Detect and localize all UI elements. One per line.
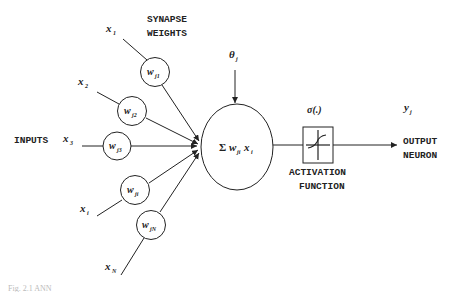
weight-node-j2: w j2 [118,97,147,126]
inputs-label: INPUTS [14,135,49,146]
input-x2-label: x 2 [77,75,88,89]
weight-arrow-1 [162,85,199,141]
weight-node-j3: w j3 [103,132,131,160]
svg-text:Σ: Σ [219,141,226,153]
svg-text:x: x [79,202,86,214]
svg-text:jN: jN [149,226,157,232]
activation-symbol: σ(.) [307,104,322,116]
svg-text:2: 2 [84,83,88,89]
svg-text:θ: θ [229,48,235,60]
svg-text:w: w [109,140,116,151]
weight-node-j1: w j1 [141,58,170,87]
svg-text:w: w [142,219,149,230]
svg-text:j3: j3 [116,147,122,153]
figure-caption: Fig. 2.1 ANN [8,284,52,292]
svg-text:w: w [127,184,134,195]
summation-node: Σ w ji x i [201,104,273,190]
svg-text:ji: ji [134,191,139,197]
input-xN-label: x N [104,260,117,274]
svg-text:N: N [111,268,117,274]
input-line-2 [97,92,119,104]
weight-arrow-N [160,153,199,212]
svg-text:i: i [87,210,89,216]
weights-label: WEIGHTS [147,28,187,39]
output-neuron-label-1: OUTPUT [403,136,438,147]
svg-text:x: x [77,75,84,87]
output-label: y j [402,101,412,115]
svg-text:w: w [124,105,131,116]
weight-arrow-2 [146,118,198,144]
weight-node-ji: w ji [121,176,150,205]
svg-text:x: x [105,22,112,34]
svg-text:j: j [235,56,238,62]
output-neuron-label-2: NEURON [403,150,438,161]
activation-function-box [303,127,333,163]
svg-text:j2: j2 [131,112,137,118]
function-label: FUNCTION [299,181,345,192]
synapse-label: SYNAPSE [147,14,187,25]
neuron-diagram: SYNAPSE WEIGHTS INPUTS x 1 x 2 x 3 x i x… [0,0,455,292]
activation-label: ACTIVATION [289,167,346,178]
svg-text:x: x [62,132,69,144]
svg-text:w: w [229,141,237,153]
input-line-i [97,200,122,216]
svg-text:w: w [147,66,154,77]
input-line-1 [123,39,147,60]
svg-text:x: x [104,260,111,272]
input-line-N [121,238,144,275]
input-x3-label: x 3 [62,132,73,146]
svg-text:j: j [409,109,412,115]
svg-text:3: 3 [69,140,73,146]
input-x1-label: x 1 [105,22,116,36]
svg-text:x: x [243,141,250,153]
bias-label: θ j [229,48,238,62]
weight-node-jN: w jN [137,211,166,240]
svg-text:j1: j1 [154,73,160,79]
svg-text:1: 1 [113,30,116,36]
input-xi-label: x i [79,202,89,216]
svg-text:ji: ji [236,149,241,155]
svg-text:y: y [402,101,409,113]
